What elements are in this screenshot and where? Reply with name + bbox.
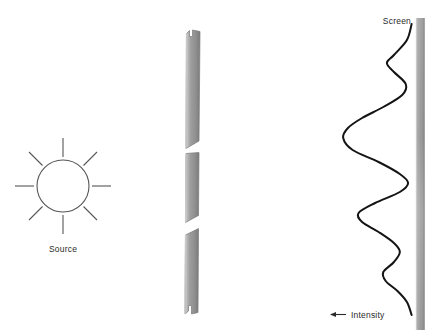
barrier-segment-middle-highlight [186,154,187,223]
light-source-group: Source [15,138,111,254]
screen-bar-sheen [416,18,425,330]
source-ray-nw [29,152,43,166]
source-ray-sw [29,207,43,221]
source-ray-ne [84,152,98,166]
intensity-arrow-head-icon [330,312,336,317]
intensity-curve-group [343,24,412,315]
source-ray-se [84,207,98,221]
double-slit-figure: Source [0,0,434,335]
barrier-segment-top-face [186,30,200,149]
source-rays [15,138,111,234]
barrier-segment-top-highlight [186,34,187,149]
source-label: Source [49,244,77,254]
intensity-label-group: Intensity [330,310,385,320]
barrier-segment-middle-face [186,153,200,223]
intensity-curve [343,24,412,315]
intensity-label: Intensity [351,310,385,320]
barrier-segment-bottom-highlight [185,235,186,314]
figure-canvas: Source [0,0,434,335]
barrier-segment-bottom [185,229,199,315]
screen-group: Screen [383,16,425,330]
screen-label: Screen [383,16,411,26]
barrier-segment-bottom-face [185,229,199,315]
barrier-segment-middle [186,153,200,223]
source-circle-icon [37,160,89,212]
barrier-group [185,30,200,314]
barrier-segment-top [186,30,200,149]
